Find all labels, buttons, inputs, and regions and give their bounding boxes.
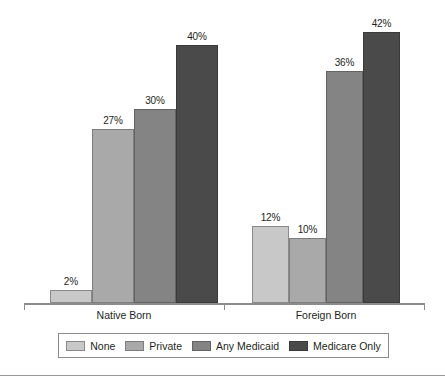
bar-native-medicare-only [176,45,218,303]
chart-legend: None Private Any Medicaid Medicare Only [58,333,389,358]
legend-swatch-none-icon [66,341,85,351]
bar-native-none [50,290,92,303]
bar-foreign-medicare-only [363,32,400,303]
value-label-foreign-private: 10% [278,225,338,235]
bar-foreign-any-medicaid [326,71,363,303]
legend-item-private: Private [125,340,182,352]
axis-tick-center [224,303,225,310]
value-label-foreign-none: 12% [241,213,301,223]
bar-native-any-medicaid [134,109,176,303]
legend-label-none: None [90,340,115,352]
bottom-divider [0,375,445,376]
legend-label-any-medicaid: Any Medicaid [216,340,279,352]
bar-foreign-private [289,238,326,303]
axis-tick-left [24,303,25,310]
legend-item-any-medicaid: Any Medicaid [192,340,279,352]
legend-swatch-medicare-only-icon [289,341,308,351]
axis-tick-right [424,303,425,310]
legend-swatch-any-medicaid-icon [192,341,211,351]
value-label-foreign-any-medicaid: 36% [315,58,375,68]
category-label-native-born: Native Born [74,309,174,322]
plot-area: 2% 27% 30% 40% 12% 10% 36% 42% Native Bo… [0,0,445,310]
bar-foreign-none [252,226,289,303]
legend-swatch-private-icon [125,341,144,351]
legend-item-medicare-only: Medicare Only [289,340,381,352]
value-label-native-none: 2% [41,277,101,287]
value-label-native-any-medicaid: 30% [125,96,185,106]
legend-item-none: None [66,340,115,352]
legend-label-medicare-only: Medicare Only [313,340,381,352]
category-label-foreign-born: Foreign Born [276,309,376,322]
value-label-foreign-medicare-only: 42% [352,19,412,29]
value-label-native-medicare-only: 40% [167,32,227,42]
legend-label-private: Private [149,340,182,352]
value-label-native-private: 27% [83,116,143,126]
bar-chart-figure: 2% 27% 30% 40% 12% 10% 36% 42% Native Bo… [0,0,445,383]
